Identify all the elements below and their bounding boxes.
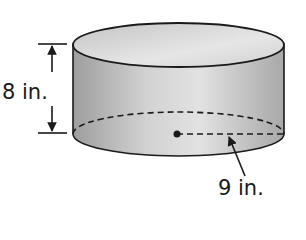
cylinder-top-face bbox=[73, 23, 284, 67]
center-point bbox=[174, 131, 181, 138]
height-label: 8 in. bbox=[2, 82, 48, 103]
radius-label: 9 in. bbox=[218, 178, 264, 199]
